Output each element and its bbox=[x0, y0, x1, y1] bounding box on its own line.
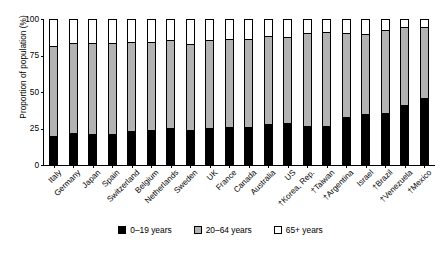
stacked-bar bbox=[88, 19, 97, 165]
legend-label: 20–64 years bbox=[206, 225, 252, 235]
bar-segment-20-64 bbox=[323, 32, 330, 127]
bar-slot bbox=[103, 19, 123, 165]
x-axis-labels: ItalyGermanyJapanSpainSwitzerlandBelgium… bbox=[44, 168, 434, 226]
bar-segment-65-plus bbox=[128, 20, 135, 42]
bar-segment-65-plus bbox=[148, 20, 155, 42]
bar-slot bbox=[122, 19, 142, 165]
bar-slot bbox=[44, 19, 64, 165]
stacked-bar bbox=[244, 19, 253, 165]
bar-segment-65-plus bbox=[362, 20, 369, 34]
bar-segment-20-64 bbox=[343, 33, 350, 118]
bar-segment-20-64 bbox=[265, 36, 272, 125]
legend-swatch bbox=[194, 226, 202, 234]
bar-segment-20-64 bbox=[226, 39, 233, 128]
y-tick-label: 100 bbox=[25, 14, 39, 24]
bar-segment-0-19 bbox=[304, 127, 311, 164]
y-tick-label: 75 bbox=[30, 50, 39, 60]
bar-segment-65-plus bbox=[226, 20, 233, 39]
bar-segment-65-plus bbox=[421, 20, 428, 27]
stacked-bar bbox=[264, 19, 273, 165]
bar-segment-20-64 bbox=[304, 33, 311, 127]
stacked-bar bbox=[127, 19, 136, 165]
bar-slot bbox=[83, 19, 103, 165]
stacked-bar bbox=[69, 19, 78, 165]
stacked-bar bbox=[283, 19, 292, 165]
stacked-bar bbox=[381, 19, 390, 165]
bar-segment-65-plus bbox=[304, 20, 311, 33]
bar-segment-20-64 bbox=[128, 42, 135, 133]
stacked-bar bbox=[303, 19, 312, 165]
y-tick-label: 0 bbox=[34, 160, 39, 170]
bar-segment-20-64 bbox=[206, 40, 213, 129]
legend-swatch bbox=[274, 226, 282, 234]
bar-segment-65-plus bbox=[70, 20, 77, 43]
chart-figure: Proportion of population (%) 0255075100 … bbox=[0, 0, 441, 256]
bar-segment-20-64 bbox=[401, 27, 408, 106]
stacked-bar bbox=[147, 19, 156, 165]
chart-legend: 0–19 years20–64 years65+ years bbox=[0, 225, 441, 235]
bar-segment-65-plus bbox=[382, 20, 389, 30]
bar-segment-65-plus bbox=[109, 20, 116, 43]
y-tick-label: 25 bbox=[30, 123, 39, 133]
stacked-bar bbox=[108, 19, 117, 165]
bar-segment-20-64 bbox=[167, 40, 174, 129]
bar-segment-20-64 bbox=[362, 34, 369, 115]
bar-segment-65-plus bbox=[187, 20, 194, 44]
bar-segment-20-64 bbox=[187, 44, 194, 130]
stacked-bar bbox=[400, 19, 409, 165]
bar-segment-0-19 bbox=[226, 128, 233, 164]
bar-segment-65-plus bbox=[401, 20, 408, 27]
legend-label: 0–19 years bbox=[130, 225, 171, 235]
bar-slot bbox=[239, 19, 259, 165]
bar-slot bbox=[64, 19, 84, 165]
bar-segment-65-plus bbox=[245, 20, 252, 39]
stacked-bar bbox=[420, 19, 429, 165]
bar-segment-65-plus bbox=[89, 20, 96, 43]
legend-item: 20–64 years bbox=[194, 225, 252, 235]
bar-segment-0-19 bbox=[70, 134, 77, 164]
stacked-bar bbox=[49, 19, 58, 165]
bar-slot bbox=[298, 19, 318, 165]
stacked-bar bbox=[225, 19, 234, 165]
bar-slot bbox=[259, 19, 279, 165]
bar-segment-0-19 bbox=[50, 137, 57, 164]
bar-segment-65-plus bbox=[323, 20, 330, 32]
legend-item: 0–19 years bbox=[118, 225, 171, 235]
bar-segment-20-64 bbox=[50, 46, 57, 137]
bar-segment-20-64 bbox=[109, 43, 116, 135]
bar-segment-20-64 bbox=[284, 37, 291, 123]
stacked-bar bbox=[322, 19, 331, 165]
bar-slot bbox=[395, 19, 415, 165]
bar-segment-20-64 bbox=[382, 30, 389, 114]
bar-slot bbox=[278, 19, 298, 165]
bar-segment-65-plus bbox=[167, 20, 174, 40]
bar-segment-20-64 bbox=[421, 27, 428, 99]
bar-slot bbox=[220, 19, 240, 165]
bar-segment-65-plus bbox=[50, 20, 57, 46]
legend-swatch bbox=[118, 226, 126, 234]
y-tick-label: 50 bbox=[30, 87, 39, 97]
stacked-bar bbox=[186, 19, 195, 165]
legend-item: 65+ years bbox=[274, 225, 323, 235]
bar-segment-20-64 bbox=[245, 39, 252, 128]
bar-segment-20-64 bbox=[70, 43, 77, 134]
legend-label: 65+ years bbox=[286, 225, 323, 235]
bar-segment-65-plus bbox=[343, 20, 350, 33]
bar-segment-65-plus bbox=[206, 20, 213, 40]
bar-segment-20-64 bbox=[148, 42, 155, 131]
bar-segment-65-plus bbox=[265, 20, 272, 36]
stacked-bar bbox=[361, 19, 370, 165]
bar-segment-20-64 bbox=[89, 43, 96, 135]
bar-segment-65-plus bbox=[284, 20, 291, 37]
